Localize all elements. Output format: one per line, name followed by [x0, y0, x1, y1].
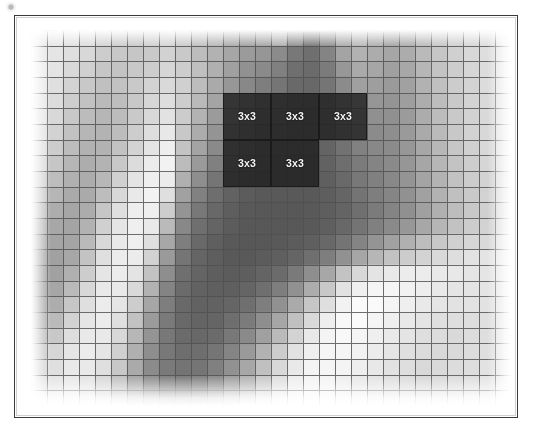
neighborhood-size-label: 3x3 [334, 111, 352, 122]
neighborhood-size-label: 3x3 [286, 111, 304, 122]
neighborhood-top-right[interactable]: 3x3 [319, 93, 367, 140]
figure-root: 3x33x33x33x33x3 [0, 0, 537, 432]
neighborhood-overlay-layer: 3x33x33x33x33x3 [31, 30, 511, 406]
neighborhood-top-middle[interactable]: 3x3 [271, 93, 319, 140]
scan-artifact-icon [4, 1, 18, 12]
neighborhood-size-label: 3x3 [238, 111, 256, 122]
neighborhood-size-label: 3x3 [238, 158, 256, 169]
neighborhood-top-left[interactable]: 3x3 [223, 93, 271, 140]
figure-frame: 3x33x33x33x33x3 [14, 15, 518, 418]
neighborhood-bottom-left[interactable]: 3x3 [223, 140, 271, 187]
neighborhood-size-label: 3x3 [286, 158, 304, 169]
neighborhood-bottom-middle[interactable]: 3x3 [271, 140, 319, 187]
